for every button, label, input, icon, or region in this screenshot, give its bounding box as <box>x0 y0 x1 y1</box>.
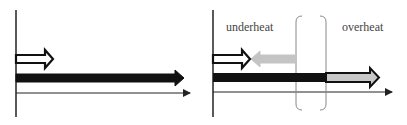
black-arrow <box>16 70 184 86</box>
bracket-right <box>320 16 326 110</box>
gray-arrow-right <box>326 68 379 87</box>
gray-arrow-left <box>251 51 296 67</box>
left-panel <box>16 10 190 117</box>
overheat-label: overheat <box>342 20 383 35</box>
bracket-left <box>296 16 302 110</box>
black-arrow <box>213 73 326 82</box>
underheat-label: underheat <box>226 20 273 35</box>
white-arrow <box>213 50 250 68</box>
diagram-canvas <box>0 0 407 125</box>
white-arrow <box>16 50 53 68</box>
